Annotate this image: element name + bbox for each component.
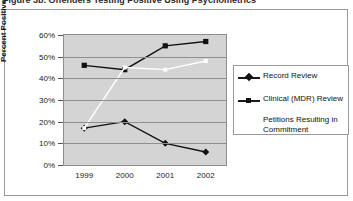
- legend-label: Petitions Resulting in Commitment: [263, 115, 347, 135]
- legend-label: Record Review: [263, 71, 317, 81]
- y-axis-tick-label: 0%: [43, 161, 55, 170]
- plot-area: [63, 34, 227, 166]
- legend-marker-icon: [238, 96, 260, 105]
- gridline: [64, 57, 226, 58]
- gridline: [64, 122, 226, 123]
- y-axis-tick-label: 40%: [39, 74, 55, 83]
- chart-legend: Record ReviewClinical (MDR) ReviewPetiti…: [233, 65, 349, 135]
- y-axis-tick-label: 50%: [39, 52, 55, 61]
- x-axis-tick-label: 2000: [116, 171, 134, 180]
- data-point-marker: [123, 66, 127, 70]
- legend-item[interactable]: Record Review: [238, 71, 317, 82]
- figure-caption-strip: Figure 3b. Offenders Testing Positive Us…: [0, 0, 353, 7]
- data-point-marker: [163, 68, 167, 72]
- x-axis-tick-label: 1999: [75, 171, 93, 180]
- gridline: [64, 143, 226, 144]
- data-point-marker: [204, 59, 208, 63]
- data-point-marker: [163, 43, 168, 48]
- series-line: [84, 122, 206, 152]
- figure-frame: Percent Positive 0%10%20%30%40%50%60% 19…: [4, 9, 348, 196]
- gridline: [64, 100, 226, 101]
- figure-screenshot: Figure 3b. Offenders Testing Positive Us…: [0, 0, 353, 201]
- figure-caption: Figure 3b. Offenders Testing Positive Us…: [3, 0, 256, 5]
- data-point-marker: [82, 63, 87, 68]
- data-point-marker: [203, 39, 208, 44]
- legend-item[interactable]: Clinical (MDR) Review: [238, 94, 343, 105]
- series-line: [84, 61, 206, 128]
- legend-label: Clinical (MDR) Review: [263, 94, 343, 104]
- legend-marker-icon: [238, 73, 260, 82]
- y-axis-tick-label: 20%: [39, 117, 55, 126]
- x-axis-tick-label: 2001: [156, 171, 174, 180]
- y-axis-tick-label: 10%: [39, 139, 55, 148]
- gridline: [64, 78, 226, 79]
- legend-item[interactable]: Petitions Resulting in Commitment: [238, 115, 347, 135]
- data-point-marker: [202, 148, 209, 155]
- data-point-marker: [82, 126, 86, 130]
- y-axis-tick-label: 30%: [39, 96, 55, 105]
- y-axis-tick-label: 60%: [39, 31, 55, 40]
- legend-marker-icon: [238, 117, 260, 126]
- y-axis-labels: 0%10%20%30%40%50%60%: [5, 10, 63, 190]
- x-axis-tick-label: 2002: [197, 171, 215, 180]
